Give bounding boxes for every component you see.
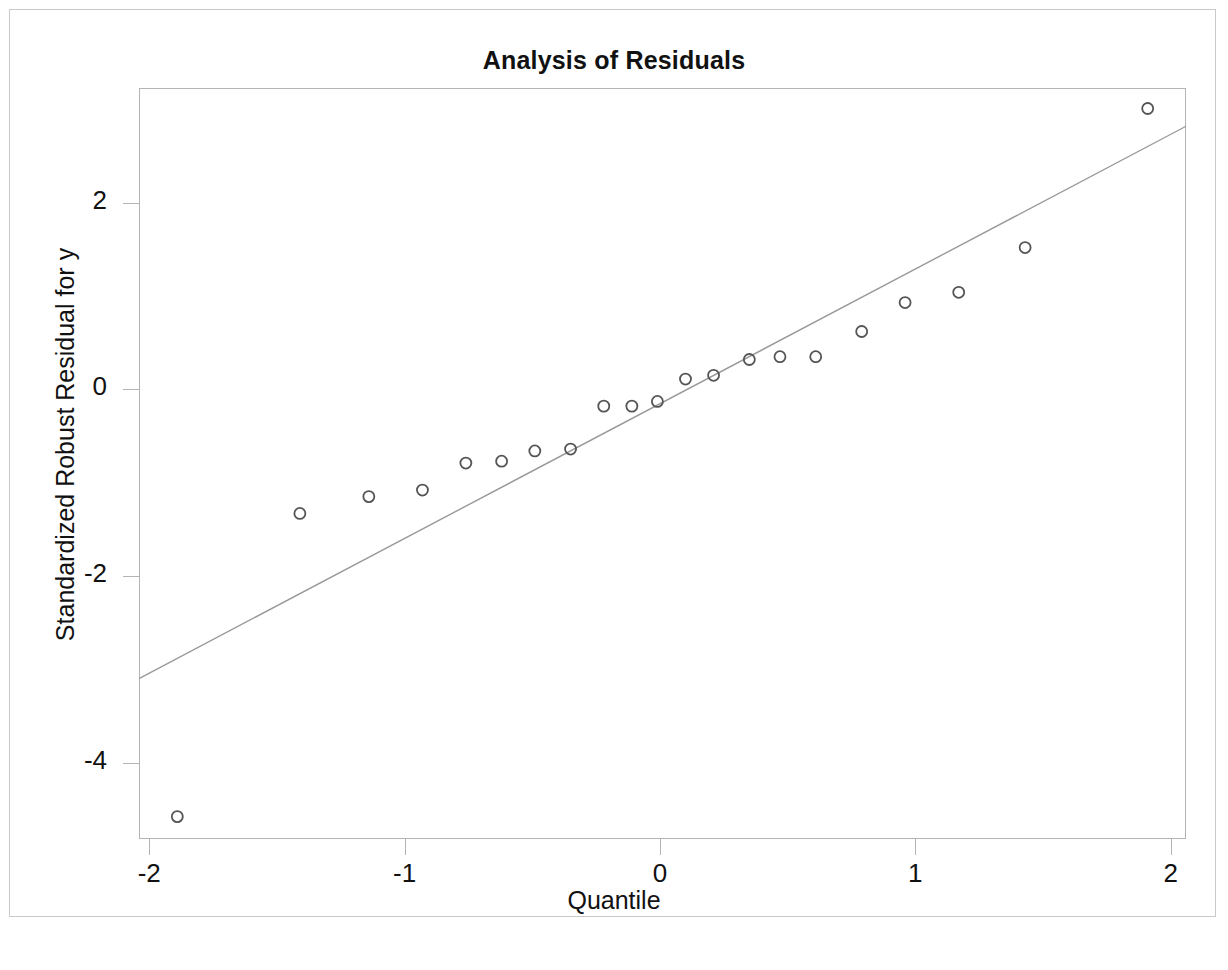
x-tick-mark — [1171, 839, 1172, 855]
data-point — [1020, 242, 1031, 253]
data-point — [598, 401, 609, 412]
data-point — [363, 491, 374, 502]
data-point — [810, 351, 821, 362]
y-axis-title: Standardized Robust Residual for y — [51, 165, 80, 725]
x-axis-title: Quantile — [0, 886, 1228, 915]
data-points-group — [172, 103, 1153, 822]
x-tick-mark — [149, 839, 150, 855]
y-tick-mark — [123, 763, 139, 764]
x-tick-label: -1 — [375, 858, 435, 889]
y-tick-mark — [123, 203, 139, 204]
data-point — [900, 297, 911, 308]
data-point — [1142, 103, 1153, 114]
plot-area — [139, 88, 1186, 839]
data-point — [460, 458, 471, 469]
data-point — [744, 354, 755, 365]
data-point — [496, 456, 507, 467]
data-point — [417, 485, 428, 496]
y-tick-label: -4 — [47, 745, 107, 776]
x-tick-mark — [915, 839, 916, 855]
x-tick-label: 1 — [885, 858, 945, 889]
data-point — [626, 401, 637, 412]
data-point — [172, 811, 183, 822]
data-point — [856, 326, 867, 337]
data-point — [680, 374, 691, 385]
x-tick-label: -2 — [119, 858, 179, 889]
x-tick-mark — [405, 839, 406, 855]
x-tick-mark — [660, 839, 661, 855]
data-point — [294, 508, 305, 519]
y-tick-mark — [123, 389, 139, 390]
x-tick-label: 0 — [630, 858, 690, 889]
data-point — [774, 351, 785, 362]
page-title: Analysis of Residuals — [0, 46, 1228, 75]
scatter-plot-canvas — [139, 88, 1186, 839]
chart-page: Analysis of Residuals 20-2-4 -2-1012 Sta… — [0, 0, 1228, 970]
y-tick-mark — [123, 576, 139, 577]
data-point — [953, 287, 964, 298]
data-point — [529, 445, 540, 456]
x-tick-label: 2 — [1141, 858, 1201, 889]
